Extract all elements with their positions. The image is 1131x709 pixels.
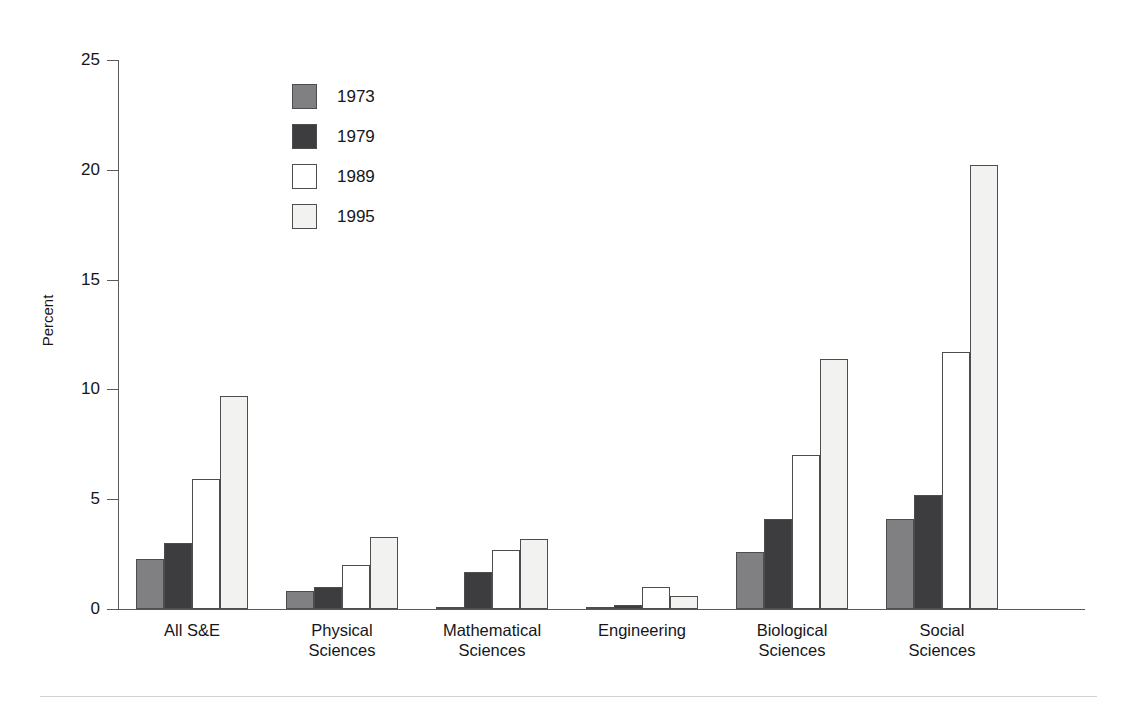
bar-group [736, 60, 848, 609]
y-tick-mark [107, 389, 118, 390]
bar [792, 455, 820, 609]
legend-item-label: 1973 [337, 88, 375, 105]
bar [192, 479, 220, 609]
y-tick-label: 5 [40, 490, 100, 507]
bar [464, 572, 492, 609]
chart-legend: 1973197919891995 [292, 76, 462, 236]
footer-divider [40, 696, 1097, 697]
bar [670, 596, 698, 609]
bar [314, 587, 342, 609]
bar [886, 519, 914, 609]
x-axis-line [118, 609, 1085, 610]
bar [220, 396, 248, 609]
bar [820, 359, 848, 609]
legend-swatch-icon [292, 164, 317, 189]
legend-item[interactable]: 1989 [292, 156, 462, 196]
bar [342, 565, 370, 609]
bar [520, 539, 548, 609]
bar [942, 352, 970, 609]
legend-swatch-icon [292, 124, 317, 149]
legend-swatch-icon [292, 84, 317, 109]
y-tick-mark [107, 499, 118, 500]
y-tick-mark [107, 280, 118, 281]
bar [286, 591, 314, 609]
bar-group [886, 60, 998, 609]
x-category-label: Social Sciences [852, 620, 1032, 660]
legend-item-label: 1995 [337, 208, 375, 225]
bar [970, 165, 998, 609]
bar [764, 519, 792, 609]
bar-group [136, 60, 248, 609]
plot-area [118, 60, 1085, 609]
bar-group [586, 60, 698, 609]
bar [164, 543, 192, 609]
y-tick-mark [107, 60, 118, 61]
y-tick-label: 25 [40, 51, 100, 68]
y-tick-mark [107, 609, 118, 610]
y-tick-label: 20 [40, 161, 100, 178]
bar [642, 587, 670, 609]
legend-swatch-icon [292, 204, 317, 229]
bar [586, 607, 614, 609]
legend-item-label: 1979 [337, 128, 375, 145]
legend-item[interactable]: 1995 [292, 196, 462, 236]
legend-item-label: 1989 [337, 168, 375, 185]
bar [136, 559, 164, 610]
bar [492, 550, 520, 609]
bar [436, 607, 464, 609]
bar [914, 495, 942, 609]
y-axis-title: Percent [39, 261, 56, 381]
y-tick-label: 10 [40, 380, 100, 397]
bar [370, 537, 398, 609]
y-tick-mark [107, 170, 118, 171]
legend-item[interactable]: 1973 [292, 76, 462, 116]
bar [614, 605, 642, 609]
legend-item[interactable]: 1979 [292, 116, 462, 156]
bar [736, 552, 764, 609]
chart-figure: 0510152025 Percent All S&EPhysical Scien… [0, 0, 1131, 709]
y-tick-label: 0 [40, 600, 100, 617]
